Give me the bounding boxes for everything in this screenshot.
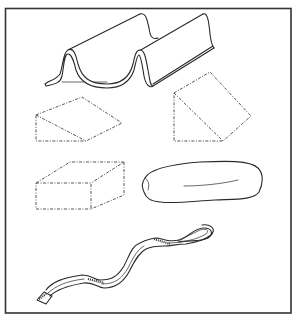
- illustration-svg: [0, 0, 296, 320]
- wedge-tall: [174, 72, 251, 141]
- wave-foam-support: [45, 14, 214, 88]
- figure-frame: [6, 9, 292, 314]
- rectangular-block: [36, 162, 124, 209]
- foam-roll: [142, 161, 262, 202]
- illustration-canvas: [0, 0, 296, 320]
- strap-with-buckle: [37, 225, 213, 304]
- wedge-low: [36, 97, 122, 141]
